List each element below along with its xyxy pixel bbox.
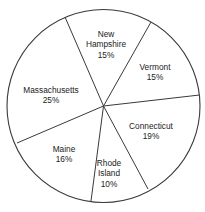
slice-name: Massachusetts xyxy=(23,85,78,95)
slice-name: Connecticut xyxy=(129,121,173,131)
slice-label-rhode-island: Rhode Island 10% xyxy=(97,158,121,189)
slice-name: Island xyxy=(97,168,121,178)
slice-label-vermont: Vermont 15% xyxy=(140,62,171,83)
slice-value: 15% xyxy=(140,72,171,82)
slice-label-new-hampshire: New Hampshire 15% xyxy=(86,29,126,60)
slice-label-connecticut: Connecticut 19% xyxy=(129,121,173,142)
slice-label-maine: Maine 16% xyxy=(53,144,76,165)
slice-value: 16% xyxy=(53,154,76,164)
slice-name: Maine xyxy=(53,144,76,154)
slice-value: 25% xyxy=(23,95,78,105)
slice-value: 10% xyxy=(97,179,121,189)
slice-value: 15% xyxy=(86,50,126,60)
slice-name: Vermont xyxy=(140,62,171,72)
slice-value: 19% xyxy=(129,131,173,141)
slice-name: Rhode xyxy=(97,158,121,168)
slice-label-massachusetts: Massachusetts 25% xyxy=(23,85,78,106)
slice-name: New xyxy=(86,29,126,39)
slice-name: Hampshire xyxy=(86,39,126,49)
